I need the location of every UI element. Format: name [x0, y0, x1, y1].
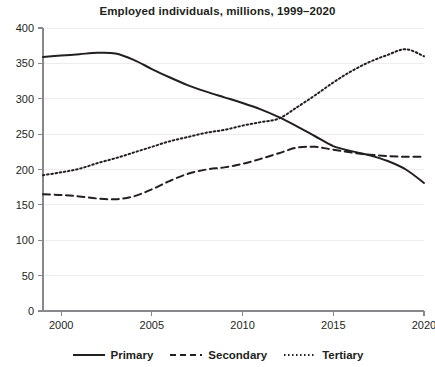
chart-legend: Primary Secondary Tertiary — [0, 349, 435, 361]
y-tick-label: 300 — [16, 93, 34, 105]
x-tick-label: 2015 — [321, 319, 345, 331]
legend-label-secondary: Secondary — [208, 349, 267, 361]
data-series — [43, 49, 424, 199]
legend-swatch-dashed-icon — [169, 350, 203, 360]
legend-swatch-dotted-icon — [283, 350, 317, 360]
series-line-primary — [43, 53, 424, 183]
x-tick-label: 2005 — [140, 319, 164, 331]
legend-item-primary[interactable]: Primary — [72, 349, 154, 361]
legend-swatch-solid-icon — [72, 350, 106, 360]
legend-label-primary: Primary — [111, 349, 154, 361]
x-tick-label: 2010 — [230, 319, 254, 331]
legend-item-secondary[interactable]: Secondary — [169, 349, 267, 361]
x-tick-label: 2000 — [49, 319, 73, 331]
series-line-tertiary — [43, 49, 424, 175]
y-tick-label: 100 — [16, 234, 34, 246]
y-tick-label: 150 — [16, 199, 34, 211]
y-tick-label: 350 — [16, 57, 34, 69]
x-axis-tick-labels: 20002005201020152020 — [49, 319, 435, 331]
axes — [38, 28, 424, 316]
gridlines — [43, 28, 424, 276]
y-tick-label: 50 — [22, 270, 34, 282]
legend-label-tertiary: Tertiary — [322, 349, 363, 361]
legend-item-tertiary[interactable]: Tertiary — [283, 349, 363, 361]
y-tick-label: 200 — [16, 164, 34, 176]
x-tick-label: 2020 — [412, 319, 435, 331]
y-tick-label: 250 — [16, 128, 34, 140]
y-axis-tick-labels: 050100150200250300350400 — [16, 22, 34, 317]
y-tick-label: 0 — [28, 305, 34, 317]
series-line-secondary — [43, 147, 424, 200]
y-tick-label: 400 — [16, 22, 34, 34]
chart-container: Employed individuals, millions, 1999–202… — [0, 0, 435, 367]
chart-plot-area: 050100150200250300350400 200020052010201… — [0, 0, 435, 367]
